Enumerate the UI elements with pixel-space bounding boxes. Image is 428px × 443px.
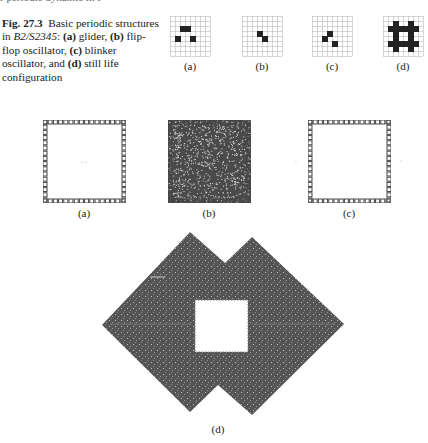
svg-text:<: < xyxy=(400,159,403,164)
svg-text:>: > xyxy=(294,159,297,164)
